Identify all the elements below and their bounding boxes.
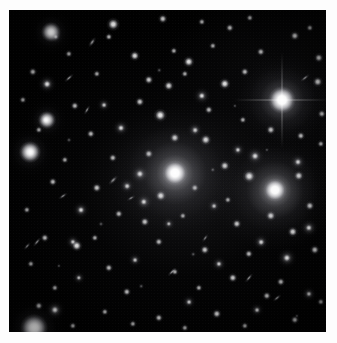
sky-background <box>9 10 326 332</box>
astronomy-plate <box>9 10 326 332</box>
image-page: Deep optical image of a rich galaxy clus… <box>0 0 337 343</box>
